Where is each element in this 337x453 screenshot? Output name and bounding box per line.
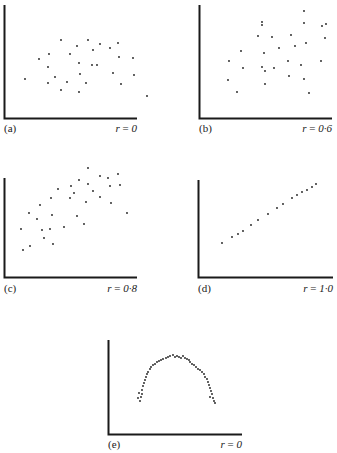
data-point	[180, 357, 182, 359]
data-point	[321, 25, 323, 27]
data-point	[236, 91, 238, 93]
data-point	[325, 23, 327, 25]
data-point	[199, 369, 201, 371]
scatter-points-d	[221, 183, 317, 244]
data-point	[273, 67, 275, 69]
panel-c: (c) r = 0·8	[4, 167, 137, 295]
scatter-points-c	[20, 167, 128, 251]
data-point	[201, 371, 203, 373]
data-point	[99, 43, 101, 45]
r-value-a: r = 0	[115, 122, 137, 134]
data-point	[154, 363, 156, 365]
panel-d: (d) r = 1·0	[198, 180, 333, 295]
data-point	[263, 52, 265, 54]
data-point	[282, 203, 284, 205]
data-point	[290, 34, 292, 36]
data-point	[267, 213, 269, 215]
data-point	[47, 82, 49, 84]
data-point	[305, 42, 307, 44]
data-point	[22, 249, 24, 251]
data-point	[48, 53, 50, 55]
panel-label-b: (b)	[199, 122, 212, 135]
data-point	[172, 354, 174, 356]
data-point	[87, 167, 89, 169]
data-point	[261, 66, 263, 68]
data-point	[87, 183, 89, 185]
data-point	[38, 58, 40, 60]
data-point	[210, 390, 212, 392]
data-point	[303, 78, 305, 80]
data-point	[76, 45, 78, 47]
data-point	[174, 356, 176, 358]
data-point	[41, 229, 43, 231]
data-point	[150, 366, 152, 368]
data-point	[107, 177, 109, 179]
data-point	[92, 190, 94, 192]
data-point	[306, 189, 308, 191]
data-point	[240, 50, 242, 52]
data-point	[126, 212, 128, 214]
data-point	[112, 72, 114, 74]
data-point	[147, 371, 149, 373]
scatter-points-a	[24, 39, 148, 97]
data-point	[99, 196, 101, 198]
data-point	[178, 356, 180, 358]
data-point	[287, 60, 289, 62]
data-point	[117, 173, 119, 175]
data-point	[142, 385, 144, 387]
data-point	[182, 355, 184, 357]
panel-label-a: (a)	[4, 122, 17, 135]
axes-e	[109, 340, 243, 435]
data-point	[165, 357, 167, 359]
r-value-e: r = 0	[220, 438, 242, 450]
data-point	[207, 381, 209, 383]
data-point	[278, 47, 280, 49]
scatter-points-b	[227, 10, 327, 94]
data-point	[189, 361, 191, 363]
data-point	[63, 226, 65, 228]
data-point	[291, 197, 293, 199]
data-point	[188, 359, 190, 361]
data-point	[51, 214, 53, 216]
data-point	[221, 242, 223, 244]
data-point	[257, 35, 259, 37]
data-point	[36, 218, 38, 220]
panel-label-d: (d)	[198, 282, 211, 295]
data-point	[237, 233, 239, 235]
data-point	[242, 67, 244, 69]
data-point	[132, 57, 134, 59]
data-point	[69, 197, 71, 199]
data-point	[204, 376, 206, 378]
data-point	[315, 183, 317, 185]
data-point	[160, 359, 162, 361]
data-point	[39, 204, 41, 206]
data-point	[120, 83, 122, 85]
data-point	[118, 56, 120, 58]
data-point	[288, 75, 290, 77]
data-point	[92, 49, 94, 51]
data-point	[228, 60, 230, 62]
data-point	[209, 396, 211, 398]
data-point	[195, 366, 197, 368]
data-point	[47, 66, 49, 68]
data-point	[261, 21, 263, 23]
data-point	[52, 243, 54, 245]
data-point	[213, 400, 215, 402]
data-point	[99, 175, 101, 177]
data-point	[191, 363, 193, 365]
data-point	[212, 397, 214, 399]
data-point	[60, 39, 62, 41]
data-point	[109, 47, 111, 49]
data-point	[193, 364, 195, 366]
data-point	[264, 70, 266, 72]
data-point	[206, 378, 208, 380]
panel-label-c: (c)	[4, 282, 17, 295]
data-point	[144, 379, 146, 381]
data-point	[308, 92, 310, 94]
data-point	[85, 201, 87, 203]
data-point	[145, 376, 147, 378]
panel-label-e: (e)	[108, 438, 121, 451]
data-point	[138, 392, 140, 394]
data-point	[261, 24, 263, 26]
data-point	[186, 358, 188, 360]
